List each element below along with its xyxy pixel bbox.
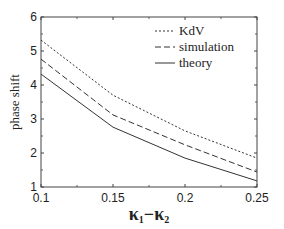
x-tick-label: 0.15	[101, 191, 125, 205]
legend-label-kdv: KdV	[179, 23, 205, 38]
x-label-sub2: 2	[164, 214, 169, 225]
y-tick-label: 1	[30, 180, 37, 194]
legend-label-simulation: simulation	[179, 39, 234, 54]
x-tick-label: 0.2	[177, 191, 194, 205]
x-tick-label: 0.25	[245, 191, 269, 205]
x-label-kappa1: κ	[129, 204, 139, 224]
data-series	[41, 40, 257, 181]
series-line-simulation	[41, 59, 257, 172]
legend: KdVsimulationtheory	[155, 23, 234, 70]
x-label-kappa2: κ	[154, 204, 164, 224]
series-line-kdv	[41, 40, 257, 158]
y-tick-label: 2	[30, 146, 37, 160]
x-tick-labels: 0.10.150.20.25	[33, 191, 269, 205]
phase-shift-chart: 0.10.150.20.25 123456 phase shift κ1−κ2 …	[0, 0, 284, 229]
x-axis-label: κ1−κ2	[129, 204, 169, 225]
x-label-minus: −	[144, 204, 154, 224]
y-tick-label: 4	[30, 78, 37, 92]
y-axis-label: phase shift	[7, 74, 22, 130]
legend-label-theory: theory	[179, 55, 213, 70]
y-tick-label: 6	[30, 10, 37, 24]
y-tick-label: 3	[30, 112, 37, 126]
y-tick-label: 5	[30, 44, 37, 58]
y-tick-labels: 123456	[30, 10, 37, 194]
series-line-theory	[41, 74, 257, 181]
